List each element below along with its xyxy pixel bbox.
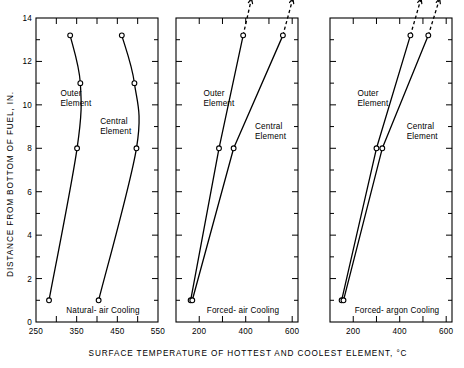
data-point-marker: [281, 33, 286, 38]
panel-caption: Forced- air Cooling: [207, 306, 280, 315]
series-annotation: CentralElement: [100, 117, 132, 136]
data-curve: [192, 35, 283, 300]
y-tick-label: 12: [22, 57, 32, 66]
x-tick-label: 600: [439, 327, 454, 336]
y-tick-label: 14: [22, 14, 32, 23]
data-point-marker: [190, 298, 195, 303]
panel-forced-argon: 200400600OuterElementCentralElementForce…: [330, 0, 454, 336]
y-tick-label: 0: [27, 318, 32, 327]
arrowhead-icon: [248, 0, 252, 4]
data-curve: [99, 35, 139, 300]
x-axis-title: SURFACE TEMPERATURE OF HOTTEST AND COOLE…: [89, 349, 408, 358]
chart-canvas: 02468101214250350450550OuterElementCentr…: [0, 0, 464, 368]
data-point-marker: [426, 33, 431, 38]
series-annotation: OuterElement: [357, 89, 389, 108]
data-point-marker: [241, 33, 246, 38]
data-point-marker: [217, 146, 222, 151]
series-annotation: OuterElement: [203, 89, 235, 108]
data-point-marker: [78, 81, 83, 86]
data-point-marker: [374, 146, 379, 151]
y-tick-label: 2: [27, 275, 32, 284]
data-point-marker: [132, 81, 137, 86]
x-tick-label: 450: [110, 327, 125, 336]
data-curve: [343, 35, 428, 300]
series-annotation: CentralElement: [407, 122, 439, 141]
panel-frame: [36, 18, 158, 322]
x-tick-label: 200: [192, 327, 207, 336]
data-point-marker: [134, 146, 139, 151]
data-point-marker: [75, 146, 80, 151]
y-tick-label: 10: [22, 101, 32, 110]
axis-labels-layer: DISTANCE FROM BOTTOM OF FUEL, IN. SURFAC…: [6, 91, 407, 358]
y-tick-label: 8: [27, 144, 32, 153]
data-point-marker: [380, 146, 385, 151]
x-tick-label: 400: [393, 327, 408, 336]
series-annotation: CentralElement: [255, 122, 287, 141]
data-curve: [49, 35, 81, 300]
data-point-marker: [119, 33, 124, 38]
panel-caption: Forced- argon Cooling: [355, 306, 440, 315]
x-tick-label: 400: [239, 327, 254, 336]
y-tick-label: 4: [27, 231, 32, 240]
data-curve: [342, 35, 411, 300]
data-point-marker: [68, 33, 73, 38]
series-annotation: OuterElement: [60, 89, 92, 108]
x-tick-label: 600: [285, 327, 300, 336]
x-tick-label: 200: [346, 327, 361, 336]
x-tick-label: 350: [70, 327, 85, 336]
data-point-marker: [341, 298, 346, 303]
y-tick-label: 6: [27, 188, 32, 197]
x-tick-label: 550: [151, 327, 166, 336]
data-point-marker: [96, 298, 101, 303]
arrowhead-icon: [290, 0, 294, 4]
panel-forced-air: 200400600OuterElementCentralElementForce…: [176, 0, 300, 336]
y-axis-title: DISTANCE FROM BOTTOM OF FUEL, IN.: [6, 91, 15, 277]
panel-frame: [330, 18, 452, 322]
figure-container: 02468101214250350450550OuterElementCentr…: [0, 0, 464, 368]
data-point-marker: [47, 298, 52, 303]
panel-caption: Natural- air Cooling: [66, 306, 140, 315]
panel-natural-air: 02468101214250350450550OuterElementCentr…: [22, 14, 165, 336]
data-point-marker: [408, 33, 413, 38]
panels-layer: 02468101214250350450550OuterElementCentr…: [22, 0, 453, 336]
x-tick-label: 250: [29, 327, 44, 336]
data-curve: [191, 35, 244, 300]
data-point-marker: [231, 146, 236, 151]
